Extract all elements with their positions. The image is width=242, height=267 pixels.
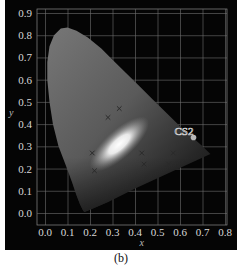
x-tick-label: 0.3 [106, 226, 120, 238]
y-tick-label: 0.5 [18, 96, 32, 108]
x-tick-label: 0.6 [173, 226, 187, 238]
x-tick-label: 0.8 [218, 226, 232, 238]
gamut-horseshoe [45, 27, 242, 237]
y-tick-label: 0.9 [18, 7, 32, 19]
chromaticity-chart: CS2 0.00.10.20.30.40.50.60.70.8 0.00.10.… [0, 0, 242, 250]
y-axis-ticks: 0.00.10.20.30.40.50.60.70.80.9 [18, 7, 32, 219]
x-tick-label: 0.2 [83, 226, 97, 238]
figure-caption: (b) [0, 251, 242, 266]
y-tick-label: 0.7 [18, 51, 32, 63]
y-tick-label: 0.2 [18, 163, 32, 175]
y-tick-label: 0.3 [18, 140, 32, 152]
y-tick-label: 0.0 [18, 207, 32, 219]
x-tick-label: 0.5 [151, 226, 165, 238]
y-tick-label: 0.8 [18, 29, 32, 41]
y-axis-label: y [8, 107, 14, 118]
annotation-label: CS2 [175, 125, 194, 137]
y-tick-label: 0.1 [18, 185, 32, 197]
x-tick-label: 0.1 [61, 226, 75, 238]
x-axis-ticks: 0.00.10.20.30.40.50.60.70.8 [38, 226, 232, 238]
y-tick-label: 0.4 [18, 118, 32, 130]
y-tick-label: 0.6 [18, 74, 32, 86]
x-tick-label: 0.7 [196, 226, 210, 238]
x-axis-label: x [139, 237, 145, 248]
x-tick-label: 0.0 [38, 226, 52, 238]
